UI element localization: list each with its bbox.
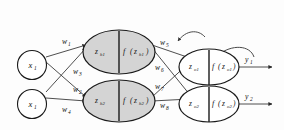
- edge-x2-h1: [46, 48, 86, 92]
- weight-label-w2: w 2: [73, 85, 82, 95]
- weight-label-w8: w 8: [160, 101, 169, 111]
- input-node-x1-subscript: 1: [34, 65, 37, 71]
- output-label-y2-subscript: 2: [250, 96, 253, 102]
- output-label-y1-subscript: 1: [250, 59, 253, 65]
- output-node-o1-fn-paren-close: ): [232, 62, 236, 71]
- hidden-node-h1-net-label: z: [94, 47, 98, 56]
- hidden-node-h2-fn-paren-close: ): [145, 96, 149, 105]
- output-label-y2: y 2: [244, 92, 253, 102]
- weight-label-w4-subscript: 4: [68, 109, 71, 115]
- weight-label-w1: w 1: [62, 37, 71, 47]
- input-node-x1-label: x: [28, 60, 33, 70]
- output-node-o2-fn-arg: z: [221, 99, 225, 108]
- input-node-x2-subscript: 1: [34, 104, 37, 110]
- input-node-x1[interactable]: x 1: [18, 51, 47, 80]
- weight-label-w6: w 6: [155, 63, 164, 73]
- output-node-o1-net-subscript: o1: [194, 67, 199, 72]
- backprop-arrow-to-w5: [178, 32, 205, 41]
- hidden-node-h2[interactable]: z h2 f ( z h2 ): [83, 80, 155, 122]
- output-node-o2-net-subscript: o2: [194, 104, 199, 109]
- weight-label-w4: w 4: [62, 105, 71, 115]
- output-label-y2-symbol: y: [244, 92, 249, 101]
- hidden-node-h2-net-subscript: h2: [100, 101, 105, 106]
- neural-network-diagram: x 1 x 1 z h1 f ( z h1 ) z h2 f ( z: [0, 0, 284, 130]
- hidden-node-h2-fn-arg: z: [133, 96, 137, 105]
- input-node-x2-label: x: [28, 99, 33, 109]
- hidden-node-h1-fn-arg-subscript: h1: [139, 52, 144, 57]
- output-node-o1-net-label: z: [188, 62, 192, 71]
- output-node-o2-fn-arg-subscript: o2: [227, 104, 232, 109]
- output-label-y1: y 1: [244, 55, 253, 65]
- weight-label-w6-subscript: 6: [161, 67, 164, 73]
- weight-label-w7-subscript: 7: [161, 86, 164, 92]
- output-node-o1-fn-arg: z: [221, 62, 225, 71]
- weight-label-w5-subscript: 5: [166, 42, 169, 48]
- hidden-node-h1-fn-paren-close: ): [145, 47, 149, 56]
- weight-label-w2-subscript: 2: [79, 89, 82, 95]
- hidden-node-h1[interactable]: z h1 f ( z h1 ): [83, 30, 155, 74]
- weight-label-w8-subscript: 8: [166, 105, 169, 111]
- edge-x2-h2: [46, 98, 86, 101]
- weight-label-w5: w 5: [160, 38, 169, 48]
- weight-label-w7: w 7: [155, 82, 164, 92]
- hidden-node-h2-fn-arg-subscript: h2: [139, 101, 144, 106]
- weight-label-w3: w 3: [73, 67, 82, 77]
- output-node-o2-net-label: z: [188, 99, 192, 108]
- weight-label-w3-subscript: 3: [78, 71, 82, 77]
- hidden-node-h1-fn-arg: z: [133, 47, 137, 56]
- network-canvas: x 1 x 1 z h1 f ( z h1 ) z h2 f ( z: [0, 0, 284, 130]
- output-node-o2[interactable]: z o2 f ( z o2 ): [179, 86, 239, 122]
- output-node-o1[interactable]: z o1 f ( z o1 ): [179, 49, 239, 85]
- output-node-o1-fn-arg-subscript: o1: [227, 67, 232, 72]
- hidden-node-h1-net-subscript: h1: [100, 52, 105, 57]
- output-label-y1-symbol: y: [244, 55, 249, 64]
- input-node-x2[interactable]: x 1: [18, 90, 47, 119]
- hidden-node-h2-net-label: z: [94, 96, 98, 105]
- weight-label-w1-subscript: 1: [68, 41, 71, 47]
- output-node-o2-fn-paren-close: ): [232, 99, 236, 108]
